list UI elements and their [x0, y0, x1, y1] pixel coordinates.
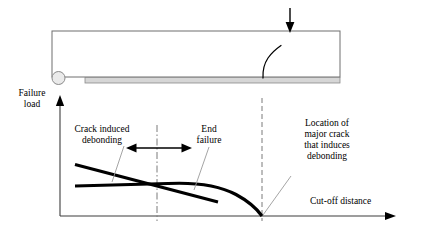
leader-line-major-crack: [263, 176, 291, 215]
beam-schematic-group: [52, 8, 340, 85]
annotation-crack-induced-debonding: Crack induceddebonding: [62, 124, 142, 146]
y-axis-label-line1: Failure: [19, 88, 46, 98]
y-axis-label-line2: load: [24, 99, 40, 109]
annotation-major-crack-location: Location ofmajor crackthat inducesdebond…: [288, 118, 366, 162]
annotation-end-failure-line1: End: [201, 124, 216, 134]
x-axis: [60, 212, 396, 220]
bonded-plate: [85, 78, 340, 84]
annotation-location-line4: debonding: [307, 151, 347, 161]
annotation-location-line2: major crack: [304, 129, 349, 139]
roller-support: [52, 72, 65, 85]
beam-outline: [52, 31, 340, 77]
annotation-crack-induced-line1: Crack induced: [74, 124, 129, 134]
annotation-end-failure-line2: failure: [197, 135, 222, 145]
point-load-arrow: [286, 8, 295, 33]
x-axis-label-text: Cut-off distance: [310, 196, 371, 206]
y-axis-label: Failureload: [6, 88, 58, 110]
annotation-location-line1: Location of: [305, 118, 349, 128]
annotation-location-line3: that induces: [304, 140, 350, 150]
annotation-crack-induced-line2: debonding: [82, 135, 122, 145]
x-axis-label: Cut-off distance: [310, 196, 406, 207]
annotation-end-failure: Endfailure: [183, 124, 235, 146]
y-axis: [56, 95, 64, 216]
figure-container: Failureload Cut-off distance Crack induc…: [0, 0, 422, 243]
